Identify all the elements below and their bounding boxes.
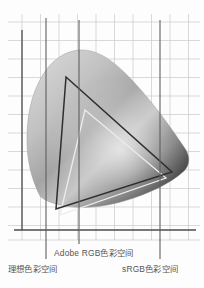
label-adobe-rgb-color-space: Adobe RGB色彩空间 bbox=[54, 246, 133, 258]
gamut-diagram-canvas bbox=[0, 0, 204, 288]
chromaticity-gamut-figure: Adobe RGB色彩空间 理想色彩空间 sRGB色彩空间 bbox=[0, 0, 204, 288]
label-ideal-color-space: 理想色彩空间 bbox=[8, 262, 57, 274]
label-srgb-color-space: sRGB色彩空间 bbox=[122, 262, 178, 274]
